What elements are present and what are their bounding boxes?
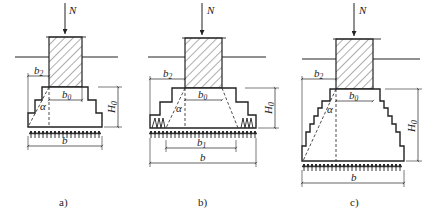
label-N: N (68, 4, 77, 16)
caption-b: b) (198, 196, 208, 209)
svg-text:H0: H0 (262, 102, 276, 115)
figure-a (15, 3, 122, 150)
figure-c (302, 3, 422, 187)
svg-text:H0: H0 (105, 101, 119, 114)
svg-text:b2: b2 (314, 67, 324, 81)
caption-a: a) (59, 196, 68, 209)
caption-c: c) (350, 196, 359, 209)
column (49, 37, 82, 87)
label-N: N (206, 4, 215, 16)
figure-b (148, 3, 279, 167)
label-b: b (351, 171, 357, 183)
svg-text:b2: b2 (163, 67, 173, 81)
label-alpha: α (327, 103, 333, 115)
label-alpha: α (40, 100, 46, 112)
label-N: N (358, 4, 367, 16)
label-alpha: α (176, 102, 182, 114)
svg-text:H0: H0 (405, 120, 419, 133)
soil-pressure-arrows-icon (302, 164, 401, 171)
column (185, 38, 222, 88)
foundation-diagrams: N b2 b0 α H0 b a) (0, 0, 435, 222)
soil-pressure-arrows-icon (149, 131, 256, 138)
svg-text:b1: b1 (197, 136, 206, 150)
label-b: b (62, 134, 68, 146)
svg-text:b2: b2 (34, 64, 44, 78)
column (336, 39, 373, 89)
label-b: b (200, 151, 206, 163)
